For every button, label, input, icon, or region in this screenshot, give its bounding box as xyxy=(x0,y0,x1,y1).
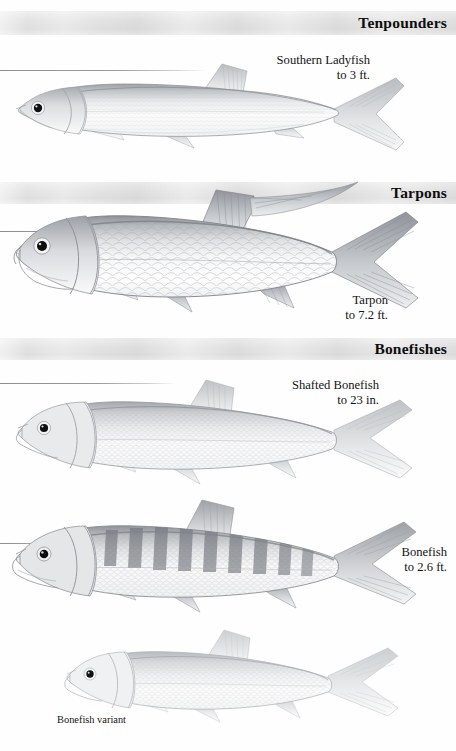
section-title-tenpounders: Tenpounders xyxy=(358,15,456,31)
field-guide-plate: Tenpounders Southern Ladyfish to 3 ft. xyxy=(0,0,456,751)
illustration-shafted-bonefish xyxy=(4,372,444,502)
illustration-tarpon xyxy=(2,176,442,351)
section-title-bonefishes: Bonefishes xyxy=(374,341,456,357)
section-header-tenpounders: Tenpounders xyxy=(0,11,456,35)
illustration-bonefish xyxy=(2,492,442,627)
caption-bonefish-variant: Bonefish variant xyxy=(57,714,126,725)
illustration-southern-ladyfish xyxy=(4,52,434,162)
section-header-bonefishes: Bonefishes xyxy=(0,338,456,360)
